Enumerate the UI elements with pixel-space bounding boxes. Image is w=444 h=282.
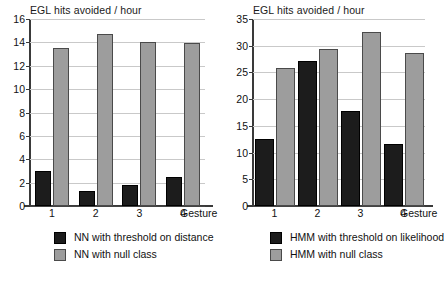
bar [122,185,138,206]
y-tick-label: 16 [13,14,25,25]
y-tick-label: 12 [13,61,25,72]
bar [140,42,156,206]
bar [35,171,51,206]
bar [405,53,424,206]
legend-item: HMM with null class [270,246,444,263]
chart-panel-nn: EGL hits avoided / hour 0246810121416 Ge… [0,0,215,282]
legend-label: HMM with null class [290,249,383,260]
x-tick-label: 4 [401,208,407,219]
y-tick-mark [249,206,253,207]
bar [298,61,317,206]
y-tick-label: 25 [236,67,248,78]
bars-layer [30,19,205,206]
bar [362,32,381,206]
legend-swatch-icon [270,249,282,261]
bar [384,144,403,207]
legend-item: NN with null class [54,246,214,263]
y-tick-label: 0 [242,201,248,212]
y-tick-label: 5 [242,174,248,185]
gridline [30,206,205,207]
legend-label: NN with threshold on distance [74,232,214,243]
bar [184,43,200,206]
y-tick-label: 10 [236,147,248,158]
y-tick-label: 2 [19,177,25,188]
y-tick-mark [26,206,30,207]
x-tick-label: 4 [180,208,186,219]
x-axis-labels: Gesture 1234 [253,208,425,224]
bar [53,48,69,206]
x-tick-label: 1 [49,208,55,219]
bar [341,111,360,206]
bars-layer [253,19,425,206]
y-tick-label: 0 [19,201,25,212]
chart-title: EGL hits avoided / hour [253,4,365,16]
x-tick-label: 3 [358,208,364,219]
legend-label: NN with null class [74,249,157,260]
legend-label: HMM with threshold on likelihood [290,232,444,243]
y-tick-label: 8 [19,107,25,118]
y-tick-label: 10 [13,84,25,95]
y-tick-label: 4 [19,154,25,165]
x-tick-label: 2 [93,208,99,219]
chart-title: EGL hits avoided / hour [30,4,142,16]
x-axis-labels: Gesture 1234 [30,208,205,224]
x-tick-label: 3 [136,208,142,219]
bar [276,68,295,206]
x-tick-label: 2 [315,208,321,219]
bar [97,34,113,206]
y-tick-label: 6 [19,131,25,142]
chart-legend: HMM with threshold on likelihood HMM wit… [270,229,444,263]
chart-panel-hmm: EGL hits avoided / hour 05101520253035 G… [218,0,433,282]
y-tick-label: 35 [236,14,248,25]
y-tick-label: 20 [236,94,248,105]
legend-swatch-icon [270,232,282,244]
y-tick-label: 15 [236,121,248,132]
chart-legend: NN with threshold on distance NN with nu… [54,229,214,263]
bar [319,49,338,206]
bar [79,191,95,206]
plot-area: 0246810121416 [30,19,205,206]
legend-swatch-icon [54,232,66,244]
legend-item: HMM with threshold on likelihood [270,229,444,246]
y-tick-label: 30 [236,40,248,51]
y-tick-label: 14 [13,37,25,48]
plot-area: 05101520253035 [253,19,425,206]
legend-swatch-icon [54,249,66,261]
legend-item: NN with threshold on distance [54,229,214,246]
x-tick-label: 1 [272,208,278,219]
bar [255,139,274,206]
bar [166,177,182,206]
